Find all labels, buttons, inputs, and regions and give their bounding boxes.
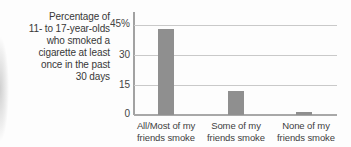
y-axis-title-line: cigarette at least bbox=[0, 47, 110, 59]
y-axis-title: Percentage of 11- to 17-year-olds who sm… bbox=[0, 11, 110, 83]
y-axis-title-line: Percentage of bbox=[0, 11, 110, 23]
y-tick-label-15: 15 bbox=[98, 79, 130, 91]
bar-chart-figure: Percentage of 11- to 17-year-olds who sm… bbox=[0, 0, 351, 147]
y-tick-label-45: 45% bbox=[98, 18, 130, 30]
y-tick-label-0: 0 bbox=[98, 108, 130, 120]
x-category-label: None of my friends smoke bbox=[261, 120, 351, 143]
y-axis-title-line: 30 days bbox=[0, 71, 110, 83]
bar bbox=[228, 91, 244, 115]
gridline-45 bbox=[134, 25, 337, 26]
bar bbox=[158, 29, 174, 115]
y-axis-title-line: who smoked a bbox=[0, 35, 110, 47]
y-tick-label-30: 30 bbox=[98, 49, 130, 61]
bar bbox=[296, 112, 312, 115]
plot-area bbox=[134, 25, 337, 115]
y-axis-title-line: 11- to 17-year-olds bbox=[0, 23, 110, 35]
x-category-label-line: None of my bbox=[261, 120, 351, 132]
y-axis-title-line: once in the past bbox=[0, 59, 110, 71]
x-category-label-line: friends smoke bbox=[261, 132, 351, 144]
